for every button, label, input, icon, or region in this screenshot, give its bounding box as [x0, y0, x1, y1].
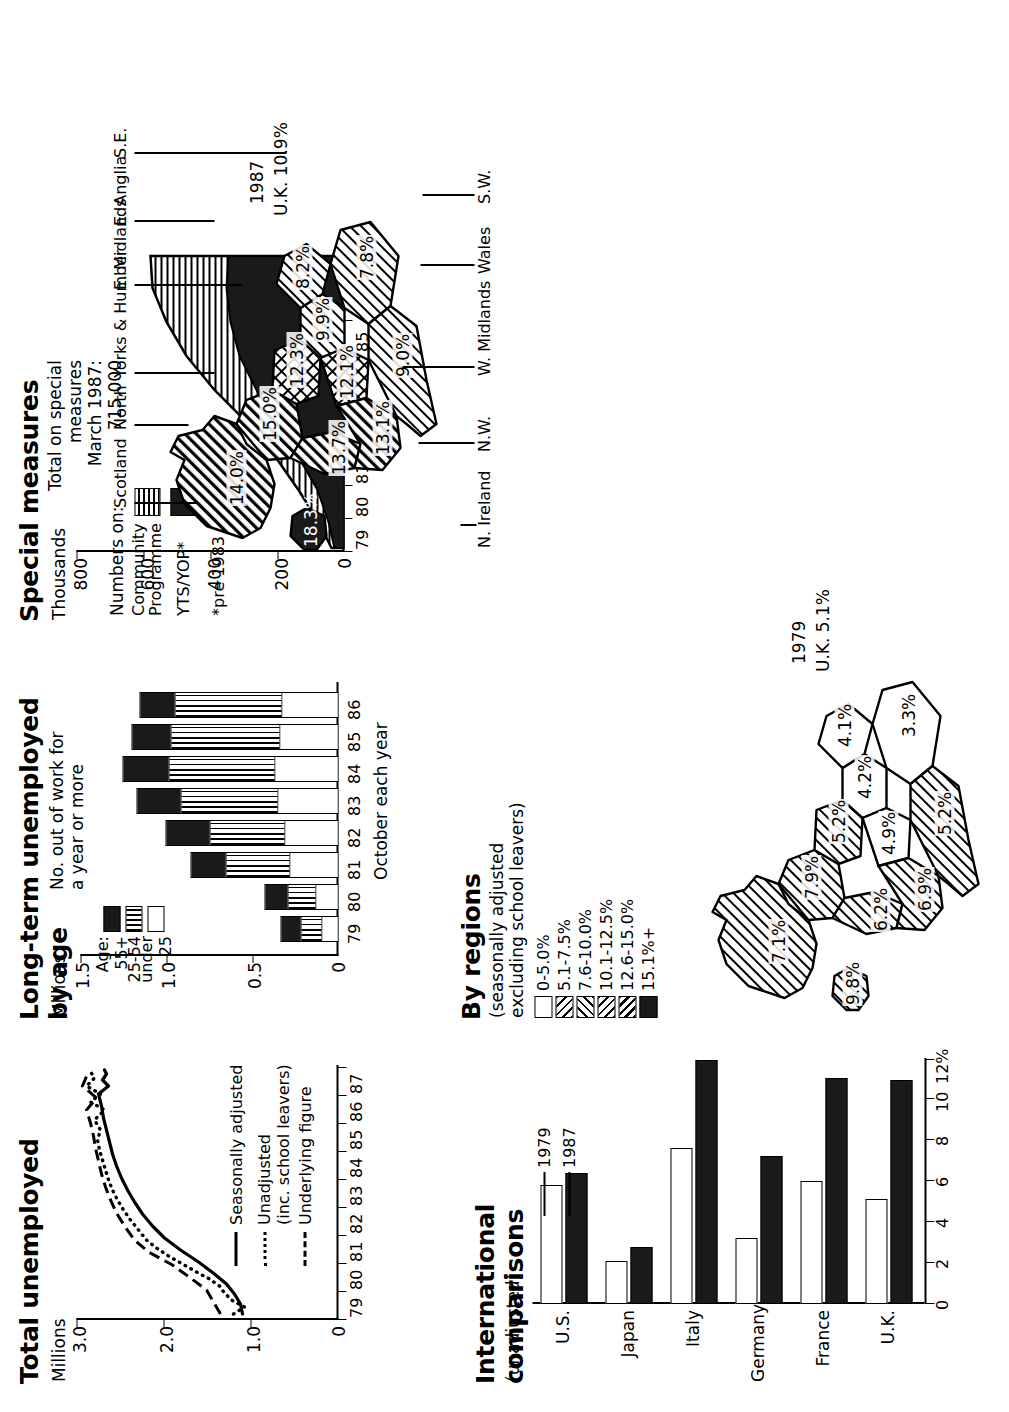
region-label-scotland: Scotland [110, 438, 129, 508]
x-label-81: 81 [344, 860, 363, 880]
map-1987-value-se: 7.8% [356, 235, 376, 280]
legend-label-class-2: 5.1-7.5% [554, 919, 573, 991]
by-regions-title: By regions [456, 873, 485, 1020]
legend-solid-line-icon [234, 1232, 237, 1266]
map-1987-value-north: 15.0% [259, 386, 279, 442]
x-tick-87 [337, 1095, 346, 1096]
x-label-82: 82 [344, 828, 363, 848]
map-1979-value-yorks-humber: 5.2% [828, 799, 848, 844]
value-label-10: 10 [932, 1092, 951, 1112]
category-label-us: U.S. [552, 1310, 572, 1382]
y-tick-label-0-5: 0.5 [244, 962, 264, 1016]
x-label-80: 80 [346, 1270, 365, 1290]
x-label-84: 84 [346, 1158, 365, 1178]
x-tick-80 [337, 1291, 346, 1292]
category-label-germany: Germany [747, 1310, 767, 1382]
bar-germany-1979 [735, 1238, 757, 1304]
value-label-8: 8 [932, 1136, 951, 1146]
region-label-e-anglia: E. Anglia [110, 156, 129, 226]
y-tick-label-3: 3.0 [69, 1326, 89, 1376]
table-row [136, 788, 338, 814]
legend-swatch-class-4-icon [597, 996, 615, 1018]
legend-label-class-5: 12.6-15.0% [617, 899, 636, 991]
international-plot [532, 1058, 924, 1304]
panel-long-term-unemployed: Long-term unemployed by age Millions No.… [14, 660, 444, 1020]
table-row [190, 852, 338, 878]
x-tick-85 [337, 1151, 346, 1152]
y-tick-label-400: 400 [204, 558, 224, 614]
x-tick-81 [337, 1263, 346, 1264]
panel-international-comparisons: International comparisons (unadjusted) [470, 1044, 990, 1384]
x-label-80: 80 [344, 892, 363, 912]
bar-japan-1979 [605, 1261, 627, 1304]
map-1979-uk-total: U.K. 5.1% [812, 589, 832, 672]
region-label-wales: Wales [474, 227, 493, 274]
legend-label-underlying-figure: Underlying figure [295, 1086, 314, 1225]
value-label-0: 0 [932, 1300, 951, 1310]
map-1987-year: 1987 [246, 161, 266, 204]
map-1979-value-e-midlands: 4.2% [854, 755, 874, 800]
map-1979-value-w-midlands: 4.9% [878, 811, 898, 856]
legend-dotted-line-icon [263, 1232, 266, 1266]
bar-italy-1987 [695, 1060, 717, 1304]
legend-label-class-3: 7.6-10.0% [575, 909, 594, 991]
long-term-x-axis-label: October each year [370, 722, 390, 880]
value-label-6: 6 [932, 1177, 951, 1187]
x-tick-end [337, 1067, 346, 1068]
bar-germany-1987 [760, 1156, 782, 1304]
legend-swatch-class-1-icon [534, 996, 552, 1018]
map-1987-value-e-anglia: 8.2% [292, 245, 312, 290]
table-row [280, 916, 338, 942]
long-term-plot [80, 682, 338, 956]
special-measures-title: Special measures [14, 380, 43, 622]
legend-dashed-line-icon [303, 1232, 306, 1266]
series-label-1979: 1979 [534, 1127, 553, 1168]
region-label-n-ireland: N. Ireland [474, 471, 493, 548]
x-tick-83 [337, 1207, 346, 1208]
map-1987-uk-total: U.K. 10.9% [270, 122, 290, 216]
y-tick-label-600: 600 [137, 558, 157, 614]
y-tick-label-0: 0 [328, 962, 348, 1016]
category-label-japan: Japan [617, 1310, 637, 1382]
map-1979-value-sw: 5.2% [934, 791, 954, 836]
table-row [264, 884, 338, 910]
series-label-1987: 1987 [559, 1127, 578, 1168]
infographic-poster: Total unemployed Millions [0, 0, 1009, 1412]
x-tick-84 [337, 1179, 346, 1180]
region-label-nw: N.W. [474, 416, 493, 452]
region-label-se: S.E. [110, 128, 129, 158]
y-tick-label-800: 800 [70, 558, 90, 614]
legend-label-class-4: 10.1-12.5% [596, 899, 615, 991]
map-1987-value-sw: 9.0% [392, 333, 412, 378]
bar-france-1987 [825, 1078, 847, 1304]
x-tick-79 [337, 1319, 346, 1320]
map-1987-region-callouts-top: Scotland North Yorks & Humber E. Midland… [56, 86, 152, 556]
panel-by-regions: By regions (seasonally adjusted excludin… [456, 550, 996, 1020]
bar-uk-1987 [890, 1080, 912, 1304]
map-1979-value-scotland: 7.1% [768, 919, 788, 964]
category-label-uk: U.K. [877, 1310, 897, 1382]
map-1979: 7.1% 9.8% 7.9% 5.2% 4.2% 4.1% 3.3% 6.2% … [696, 576, 986, 1016]
total-unemployed-title: Total unemployed [14, 1138, 43, 1384]
legend-label-unadjusted: Unadjusted [254, 1064, 273, 1225]
map-1987-value-w-midlands: 12.1% [336, 344, 356, 400]
international-subtitle: (unadjusted) [502, 1274, 522, 1382]
map-1987-value-nw: 13.7% [328, 420, 348, 476]
y-tick-label-0: 0 [328, 1326, 348, 1376]
long-term-note-line1: No. out of work for [46, 731, 66, 890]
map-1987: 14.0% 18.3% 15.0% 12.3% 9.9% 8.2% 7.8% 1… [146, 86, 446, 556]
bar-japan-1987 [630, 1247, 652, 1304]
y-tick-label-1: 1.0 [243, 1326, 263, 1376]
x-label-84: 84 [344, 764, 363, 784]
x-tick-82 [337, 1235, 346, 1236]
x-label-81: 81 [346, 1242, 365, 1262]
y-tick-label-200: 200 [271, 558, 291, 614]
legend-swatch-class-5-icon [618, 996, 636, 1018]
legend-swatch-class-6-icon [639, 996, 657, 1018]
map-1987-value-e-midlands: 9.9% [312, 297, 332, 342]
map-1979-value-nw: 6.2% [870, 887, 890, 932]
x-label-82: 82 [346, 1214, 365, 1234]
x-label-79: 79 [346, 1298, 365, 1318]
map-1979-value-e-anglia: 4.1% [834, 703, 854, 748]
map-1987-region-callouts-bottom: N. Ireland N.W. W. Midlands Wales S.W. [448, 86, 528, 556]
